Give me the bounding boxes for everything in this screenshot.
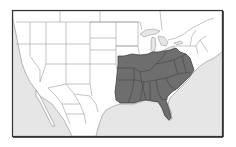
- map-svg: [0, 0, 236, 147]
- range-map: [0, 0, 236, 147]
